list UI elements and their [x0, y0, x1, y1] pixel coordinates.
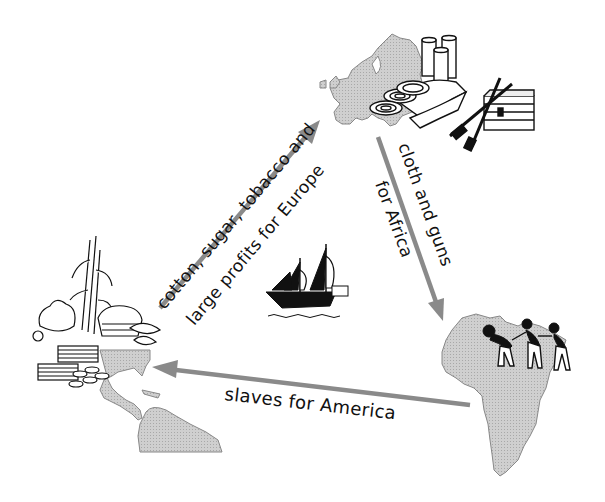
triangular-trade-diagram: cotton, sugar, tobacco and large profits… [0, 0, 605, 502]
money-stacks [38, 346, 98, 380]
ship-icon [266, 244, 348, 318]
diagram-graphics [0, 0, 605, 502]
